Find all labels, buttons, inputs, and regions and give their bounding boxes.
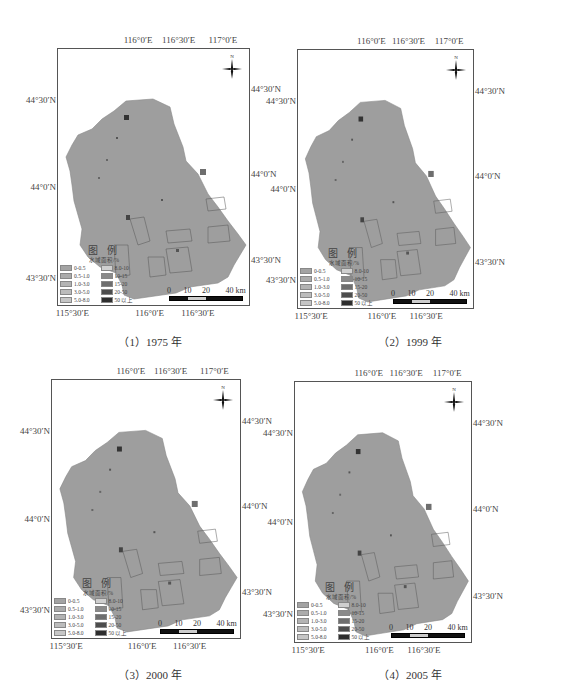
legend-label: 0-0.5 [68, 598, 79, 604]
legend-label: 15-20 [355, 284, 368, 290]
water-body [99, 491, 101, 493]
map-frame: N 图 例 水域面积/% 0-0.58.0-100.5-1.010-151.0-… [51, 379, 241, 639]
legend-swatch [101, 265, 113, 271]
bottom-longitude-tick: 116°30′E [410, 311, 443, 321]
legend-label: 0.5-1.0 [74, 273, 90, 279]
legend-label: 8.0-10 [109, 598, 123, 604]
legend-swatch [54, 606, 66, 612]
legend-item: 0-0.5 [60, 264, 98, 271]
left-latitude-tick: 44°0′N [267, 517, 293, 527]
left-latitude-tick: 43°30′N [266, 275, 296, 285]
legend-item: 20-50 [338, 625, 376, 632]
legend-label: 50 以上 [352, 633, 371, 641]
water-body [116, 137, 118, 139]
legend-item: 5.0-8.0 [300, 299, 338, 306]
water-body [161, 199, 163, 201]
legend-subtitle: 水域面积/% [310, 259, 378, 267]
legend-swatch [341, 284, 353, 290]
legend-swatch [60, 281, 72, 287]
water-body [117, 447, 122, 452]
map-frame: N 图 例 水域面积/% 0-0.58.0-100.5-1.010-151.0-… [294, 381, 472, 643]
legend-item: 1.0-3.0 [300, 283, 338, 290]
legend-label: 20-50 [355, 292, 368, 298]
legend-item: 8.0-10 [95, 597, 133, 604]
legend-label: 8.0-10 [352, 602, 366, 608]
legend-item: 20-50 [101, 288, 139, 295]
right-latitude-tick: 44°30′N [251, 84, 281, 94]
right-latitude-tick: 44°30′N [475, 86, 505, 96]
legend-item: 10-15 [101, 272, 139, 279]
scale-segments [160, 629, 234, 634]
right-latitude-tick: 44°0′N [251, 169, 277, 179]
right-latitude-tick: 44°30′N [473, 418, 503, 428]
legend-swatch [101, 289, 113, 295]
bottom-longitude-tick: 116°0′E [368, 311, 397, 321]
left-latitude-tick: 44°30′N [263, 428, 293, 438]
legend-item: 50 以上 [95, 629, 133, 636]
legend-label: 10-15 [352, 610, 365, 616]
legend-swatch [338, 634, 350, 640]
legend-item: 3.0-5.0 [54, 621, 92, 628]
panel-caption: （1）1975 年 [118, 333, 181, 349]
legend-label: 0.5-1.0 [314, 276, 330, 282]
bottom-longitude-tick: 115°30′E [50, 641, 83, 651]
right-latitude-tick: 43°30′N [251, 255, 281, 265]
scale-label: 10 [408, 289, 416, 298]
legend-item: 15-20 [341, 283, 379, 290]
legend-swatch [95, 622, 107, 628]
legend-item: 3.0-5.0 [297, 625, 335, 632]
legend-item: 0.5-1.0 [297, 609, 335, 616]
legend-item: 1.0-3.0 [297, 617, 335, 624]
water-body [119, 547, 123, 552]
legend-swatch [60, 297, 72, 303]
legend-swatch [54, 630, 66, 636]
water-body [359, 117, 364, 122]
legend-swatch [300, 268, 312, 274]
legend-label: 10-15 [109, 606, 122, 612]
north-arrow: N [212, 384, 234, 412]
scale-segments [391, 633, 465, 638]
legend-item: 8.0-10 [101, 264, 139, 271]
scale-bar: 0 10 20 40 km [169, 286, 243, 301]
water-body [356, 449, 361, 454]
legend-swatch [338, 610, 350, 616]
legend-swatch [54, 598, 66, 604]
scale-labels: 0 10 20 40 km [169, 286, 243, 296]
legend-item: 50 以上 [101, 296, 139, 303]
legend-label: 3.0-5.0 [311, 626, 327, 632]
water-body [426, 504, 432, 510]
legend-swatch [54, 614, 66, 620]
legend-swatch [95, 598, 107, 604]
scale-segments [169, 296, 243, 301]
scale-label: 10 [175, 619, 183, 628]
right-latitude-tick: 43°30′N [242, 587, 272, 597]
svg-text:N: N [221, 385, 225, 390]
legend-title: 图 例 [307, 582, 375, 593]
compass-icon: N [212, 384, 234, 412]
scale-labels: 0 10 20 40 km [391, 623, 465, 633]
left-latitude-tick: 44°30′N [26, 95, 56, 105]
panel-caption: （2）1999 年 [378, 333, 441, 349]
legend-label: 10-15 [115, 273, 128, 279]
legend-subtitle: 水域面积/% [70, 256, 138, 264]
scale-bar: 0 10 20 40 km [393, 289, 467, 304]
legend-label: 50 以上 [115, 296, 134, 304]
legend-item: 20-50 [95, 621, 133, 628]
top-longitude-tick: 116°30′E [154, 366, 187, 376]
legend-label: 15-20 [352, 618, 365, 624]
water-body [176, 249, 179, 252]
top-longitude-tick: 116°0′E [357, 36, 386, 46]
legend-label: 3.0-5.0 [314, 292, 330, 298]
legend-classes: 0-0.58.0-100.5-1.010-151.0-3.015-203.0-5… [297, 601, 375, 640]
legend-item: 10-15 [338, 609, 376, 616]
water-body [404, 585, 407, 588]
water-body [200, 169, 206, 175]
legend-swatch [300, 276, 312, 282]
legend-label: 0-0.5 [74, 265, 85, 271]
legend-subtitle: 水域面积/% [307, 593, 375, 601]
legend-swatch [300, 292, 312, 298]
north-arrow: N [221, 53, 243, 81]
legend-item: 1.0-3.0 [54, 613, 92, 620]
legend-swatch [338, 626, 350, 632]
legend-classes: 0-0.58.0-100.5-1.010-151.0-3.015-203.0-5… [54, 597, 132, 636]
